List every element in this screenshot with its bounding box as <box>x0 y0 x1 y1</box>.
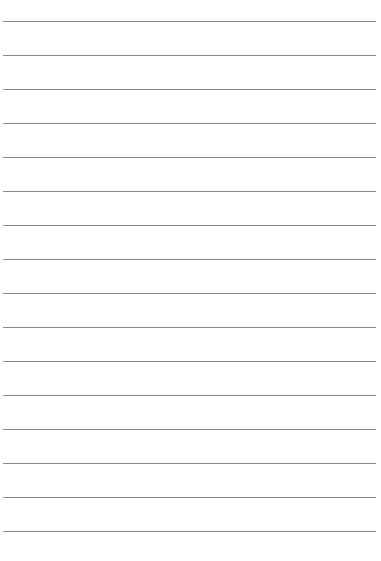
ruled-line <box>3 259 376 260</box>
ruled-line <box>3 123 376 124</box>
ruled-line <box>3 191 376 192</box>
ruled-line <box>3 55 376 56</box>
lined-paper-page <box>0 0 381 561</box>
ruled-line <box>3 89 376 90</box>
ruled-line <box>3 293 376 294</box>
ruled-line <box>3 463 376 464</box>
ruled-line <box>3 497 376 498</box>
ruled-line <box>3 225 376 226</box>
ruled-line <box>3 395 376 396</box>
ruled-line <box>3 327 376 328</box>
ruled-line <box>3 21 376 22</box>
ruled-line <box>3 157 376 158</box>
ruled-line <box>3 361 376 362</box>
ruled-line <box>3 429 376 430</box>
ruled-line <box>3 531 376 532</box>
